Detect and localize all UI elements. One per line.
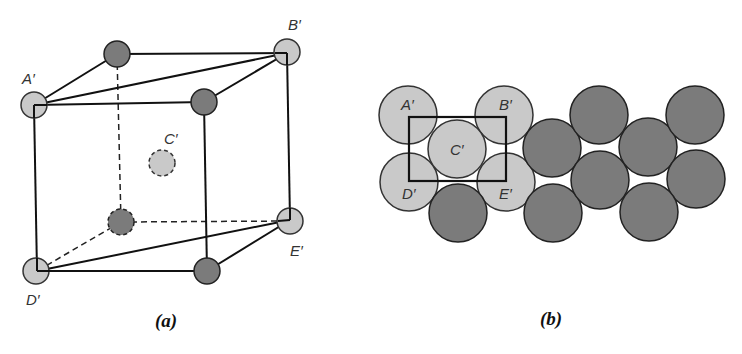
label-b-prime: B′ [288, 16, 302, 33]
edge-tip [278, 220, 290, 221]
label-e-prime: E′ [290, 242, 304, 259]
label-c-prime: C′ [164, 130, 179, 147]
caption-b: (b) [540, 308, 562, 330]
edge [34, 102, 204, 105]
label-c-prime: C′ [450, 141, 465, 158]
atom-dark [570, 86, 628, 144]
edge [34, 105, 37, 271]
atom-dark-front-bottom [194, 258, 220, 284]
label-d-prime: D′ [26, 291, 41, 308]
atom-c-prime-hidden [149, 150, 175, 176]
atom-dark [429, 184, 487, 242]
edge [204, 102, 207, 271]
label-e-prime: E′ [499, 185, 513, 202]
atom-dark-front-top [191, 89, 217, 115]
atom-dark [666, 86, 724, 144]
figure-a-cell: A′ B′ C′ D′ E′ (a) [21, 16, 304, 332]
edge-diagonal-bottom [37, 220, 290, 271]
hidden-edge-vertical [117, 54, 121, 222]
crystal-structure-figure: A′ B′ C′ D′ E′ (a) A′ B′ C′ D′ E′ (b) [0, 0, 742, 354]
atom-dark [620, 183, 678, 241]
label-a-prime: A′ [400, 96, 415, 113]
edge-diagonal-top [34, 53, 287, 105]
atom-b-prime [475, 86, 533, 144]
atom-dark-back-bottom-hidden [108, 209, 134, 235]
atom-dark-back-top [104, 41, 130, 67]
edge [287, 53, 290, 220]
edge [117, 53, 287, 54]
label-b-prime: B′ [499, 96, 513, 113]
label-d-prime: D′ [402, 185, 417, 202]
figure-b-packing: A′ B′ C′ D′ E′ (b) [379, 86, 725, 330]
label-a-prime: A′ [21, 70, 36, 87]
atom-dark [571, 151, 629, 209]
edge [204, 53, 287, 102]
hidden-edge-left-bottom [37, 222, 121, 271]
caption-a: (a) [155, 310, 177, 332]
